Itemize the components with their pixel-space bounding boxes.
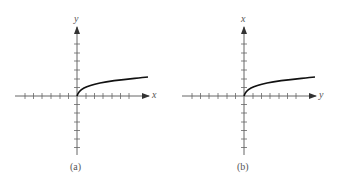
vertical-axis-label-a: y: [74, 13, 78, 24]
horizontal-axis-label-b: y: [319, 89, 323, 100]
horizontal-axis-label-a: x: [152, 89, 156, 100]
sqrt-curve: [77, 77, 148, 96]
caption-b: (b): [237, 161, 249, 172]
graph-a: [15, 27, 149, 155]
graph-b: [182, 27, 316, 155]
caption-a: (a): [70, 161, 81, 172]
vertical-axis-label-b: x: [241, 13, 245, 24]
sqrt-curve: [244, 77, 315, 96]
graphs-canvas: [0, 0, 337, 182]
